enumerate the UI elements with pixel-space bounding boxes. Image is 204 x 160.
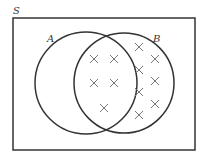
element-marker-a-and-b bbox=[100, 104, 108, 112]
universe-label: S bbox=[13, 5, 20, 16]
element-marker-b-only bbox=[135, 66, 143, 74]
venn-diagram: S A B bbox=[0, 0, 204, 160]
element-marker-a-and-b bbox=[90, 55, 98, 63]
element-marker-b-only bbox=[151, 100, 159, 108]
set-b-label: B bbox=[152, 33, 160, 44]
set-a-label: A bbox=[46, 33, 54, 44]
element-marker-a-and-b bbox=[90, 79, 98, 87]
element-marker-b-only bbox=[151, 77, 159, 85]
element-marker-a-and-b bbox=[110, 55, 118, 63]
element-marker-b-only bbox=[151, 55, 159, 63]
element-markers bbox=[90, 43, 159, 119]
element-marker-b-only bbox=[135, 111, 143, 119]
element-marker-b-only bbox=[135, 43, 143, 51]
set-a-circle bbox=[35, 32, 137, 134]
element-marker-a-and-b bbox=[110, 79, 118, 87]
